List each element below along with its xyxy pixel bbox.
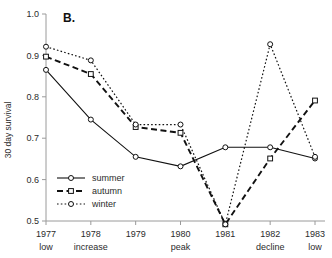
data-point-autumn bbox=[44, 54, 49, 59]
y-tick-label: 0.9 bbox=[26, 51, 39, 61]
y-tick-label: 0.7 bbox=[26, 133, 39, 143]
legend-label-autumn: autumn bbox=[92, 186, 122, 196]
data-series-group bbox=[44, 42, 318, 227]
y-axis-title: 30 day survival bbox=[3, 102, 13, 159]
data-point-autumn bbox=[88, 72, 93, 77]
panel-label: B. bbox=[63, 11, 75, 25]
data-point-winter bbox=[313, 154, 318, 159]
y-tick-label: 1.0 bbox=[26, 9, 39, 19]
data-point-winter bbox=[268, 42, 273, 47]
data-point-winter bbox=[133, 122, 138, 127]
data-point-summer bbox=[44, 67, 49, 72]
legend-item-winter: winter bbox=[57, 199, 116, 209]
chart-legend: summerautumnwinter bbox=[57, 173, 125, 209]
x-tick-label: 1983 bbox=[305, 229, 325, 239]
x-tick-sublabel: low bbox=[308, 242, 322, 252]
series-summer bbox=[44, 67, 318, 168]
y-tick-label: 0.6 bbox=[26, 175, 39, 185]
legend-marker-winter bbox=[69, 202, 74, 207]
y-tick-label: 0.8 bbox=[26, 92, 39, 102]
data-point-summer bbox=[178, 164, 183, 169]
x-tick-label: 1977 bbox=[36, 229, 56, 239]
legend-label-summer: summer bbox=[92, 173, 125, 183]
x-tick-label: 1978 bbox=[81, 229, 101, 239]
legend-marker-summer bbox=[69, 176, 74, 181]
data-point-autumn bbox=[268, 156, 273, 161]
data-point-autumn bbox=[313, 98, 318, 103]
y-tick-label: 0.5 bbox=[26, 216, 39, 226]
y-axis-ticks: 0.50.60.70.80.91.0 bbox=[26, 9, 46, 226]
data-point-winter bbox=[88, 58, 93, 63]
data-point-winter bbox=[223, 222, 228, 227]
x-tick-sublabel: increase bbox=[74, 242, 108, 252]
data-point-autumn bbox=[178, 130, 183, 135]
x-tick-label: 1980 bbox=[170, 229, 190, 239]
chart-figure: B. 30 day survival 0.50.60.70.80.91.0 19… bbox=[0, 0, 332, 258]
series-autumn bbox=[44, 54, 318, 226]
x-tick-sublabel: decline bbox=[256, 242, 285, 252]
data-point-summer bbox=[133, 154, 138, 159]
legend-label-winter: winter bbox=[91, 199, 116, 209]
data-point-winter bbox=[178, 122, 183, 127]
data-point-summer bbox=[268, 145, 273, 150]
x-tick-sublabel: low bbox=[39, 242, 53, 252]
x-tick-label: 1982 bbox=[260, 229, 280, 239]
legend-item-summer: summer bbox=[57, 173, 125, 183]
data-point-summer bbox=[88, 117, 93, 122]
series-line-autumn bbox=[46, 57, 315, 225]
x-tick-label: 1979 bbox=[126, 229, 146, 239]
x-tick-sublabel: peak bbox=[171, 242, 191, 252]
x-axis-ticks: 1977low1978increase19791980peak19811982d… bbox=[36, 221, 325, 252]
data-point-summer bbox=[223, 145, 228, 150]
legend-marker-autumn bbox=[69, 189, 74, 194]
line-chart: B. 30 day survival 0.50.60.70.80.91.0 19… bbox=[0, 0, 332, 258]
data-point-winter bbox=[44, 44, 49, 49]
x-tick-label: 1981 bbox=[215, 229, 235, 239]
legend-item-autumn: autumn bbox=[57, 186, 122, 196]
